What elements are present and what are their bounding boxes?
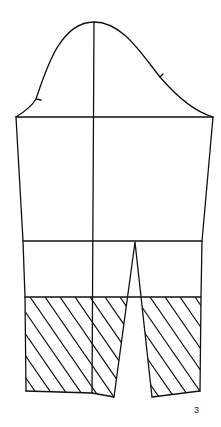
hatched-region-right xyxy=(60,297,221,417)
notch-marks xyxy=(36,74,163,100)
hatch-line xyxy=(30,297,113,417)
hem-line-left xyxy=(26,391,114,397)
figure-number: 3 xyxy=(194,405,199,415)
hatched-region-left xyxy=(0,297,203,417)
hatch-line xyxy=(60,297,143,417)
hatch-line xyxy=(75,297,158,417)
hatch-line xyxy=(210,297,221,417)
hatch-line xyxy=(0,297,23,417)
hatch-line xyxy=(150,297,221,417)
hem-line-right xyxy=(152,391,200,397)
hatch-line xyxy=(90,297,173,417)
hatch-line xyxy=(105,297,188,417)
hatch-line xyxy=(120,297,203,417)
notch-mark xyxy=(36,99,41,100)
hatch-line xyxy=(0,297,38,417)
hatch-line xyxy=(45,297,128,417)
hatch-line xyxy=(195,297,221,417)
left-underarm-seam xyxy=(16,117,26,391)
sleeve-pattern-diagram xyxy=(0,0,221,427)
hatch-line xyxy=(15,297,98,417)
notch-mark xyxy=(160,74,163,77)
right-underarm-seam xyxy=(200,117,213,391)
hatch-line xyxy=(0,297,83,417)
sleeve-cap-curve xyxy=(16,22,213,117)
center-grain-line xyxy=(92,22,94,393)
elbow-dart xyxy=(114,242,152,397)
